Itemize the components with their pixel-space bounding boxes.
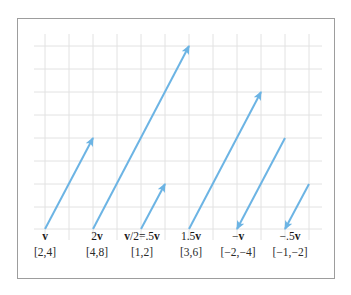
vector-name-label: 2v xyxy=(91,231,103,243)
vector-name-label: −.5v xyxy=(280,231,301,243)
vector-coords-label: [4,8] xyxy=(86,247,108,259)
vector-name-label: v xyxy=(42,231,48,243)
vector-coords-label: [1,2] xyxy=(131,247,153,259)
vector-name-label: v/2=.5v xyxy=(124,231,160,243)
vector-coords-label: [3,6] xyxy=(180,247,202,259)
vector-coords-label: [2,4] xyxy=(34,247,56,259)
vector-name-label: −v xyxy=(232,231,244,243)
vector-coords-label: [−2,−4] xyxy=(220,247,255,259)
vector-coords-label: [−1,−2] xyxy=(272,247,307,259)
vector-name-label: 1.5v xyxy=(181,231,201,243)
